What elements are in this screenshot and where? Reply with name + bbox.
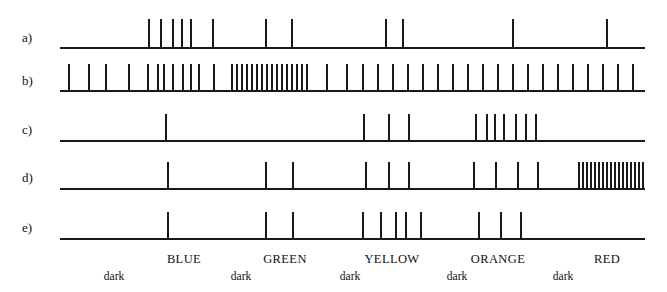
stimulus-label-red: RED [594, 252, 620, 267]
spike-mark [594, 162, 596, 188]
spike-mark [478, 212, 480, 238]
baseline-axis-row-c [60, 140, 645, 142]
spike-mark [246, 64, 248, 90]
spike-mark [405, 212, 407, 238]
spike-mark [163, 64, 165, 90]
spike-mark [292, 162, 294, 188]
spike-mark [167, 212, 169, 238]
spike-mark [231, 64, 233, 90]
spike-mark [610, 162, 612, 188]
spike-mark [362, 212, 364, 238]
stimulus-label-yellow: YELLOW [364, 252, 419, 267]
baseline-axis-row-d [60, 188, 645, 190]
spike-mark [157, 64, 159, 90]
spike-mark [598, 162, 600, 188]
spike-mark [512, 19, 514, 47]
spike-mark [642, 162, 644, 188]
spike-mark [630, 162, 632, 188]
spike-mark [408, 162, 410, 188]
spike-mark [515, 114, 517, 140]
spike-mark [362, 64, 364, 90]
spike-mark [572, 64, 574, 90]
dark-epoch-label: dark [340, 270, 360, 282]
spike-mark [256, 64, 258, 90]
spike-mark [420, 212, 422, 238]
spike-mark [626, 162, 628, 188]
spike-mark [632, 64, 634, 90]
spike-mark [286, 64, 288, 90]
spike-mark [190, 19, 192, 47]
row-label-a: a) [22, 30, 32, 46]
spike-mark [388, 162, 390, 188]
spike-mark [494, 114, 496, 140]
spike-raster-figure: a)b)c)d)e)BLUEGREENYELLOWORANGEREDdarkda… [0, 0, 667, 292]
spike-mark [265, 19, 267, 47]
spike-mark [291, 19, 293, 47]
spike-mark [160, 19, 162, 47]
spike-mark [172, 64, 174, 90]
spike-mark [365, 162, 367, 188]
spike-mark [422, 64, 424, 90]
spike-mark [190, 64, 192, 90]
spike-mark [634, 162, 636, 188]
spike-mark [281, 64, 283, 90]
spike-mark [213, 64, 215, 90]
spike-mark [236, 64, 238, 90]
row-label-c: c) [22, 122, 32, 138]
spike-mark [512, 64, 514, 90]
spike-mark [165, 114, 167, 140]
spike-mark [614, 162, 616, 188]
spike-mark [495, 162, 497, 188]
spike-mark [68, 64, 70, 90]
spike-mark [212, 19, 214, 47]
dark-epoch-label: dark [231, 270, 251, 282]
spike-mark [503, 114, 505, 140]
spike-mark [148, 19, 150, 47]
stimulus-label-blue: BLUE [167, 252, 201, 267]
spike-mark [486, 114, 488, 140]
row-label-e: e) [22, 220, 32, 236]
stimulus-label-orange: ORANGE [471, 252, 525, 267]
spike-mark [326, 64, 328, 90]
spike-mark [500, 212, 502, 238]
spike-mark [402, 19, 404, 47]
spike-mark [582, 162, 584, 188]
spike-mark [385, 19, 387, 47]
spike-mark [586, 162, 588, 188]
spike-mark [587, 64, 589, 90]
spike-mark [266, 64, 268, 90]
row-label-b: b) [22, 73, 33, 89]
spike-mark [377, 64, 379, 90]
spike-mark [535, 114, 537, 140]
spike-mark [172, 19, 174, 47]
spike-mark [346, 64, 348, 90]
spike-mark [578, 162, 580, 188]
spike-mark [271, 64, 273, 90]
spike-mark [265, 162, 267, 188]
spike-mark [602, 64, 604, 90]
row-label-d: d) [22, 170, 33, 186]
baseline-axis-row-b [60, 90, 645, 92]
baseline-axis-row-a [60, 47, 645, 49]
baseline-axis-row-e [60, 238, 645, 240]
spike-mark [473, 162, 475, 188]
spike-mark [380, 212, 382, 238]
spike-mark [475, 114, 477, 140]
spike-mark [602, 162, 604, 188]
dark-epoch-label: dark [104, 270, 124, 282]
spike-mark [606, 19, 608, 47]
spike-mark [147, 64, 149, 90]
dark-epoch-label: dark [447, 270, 467, 282]
spike-mark [395, 212, 397, 238]
spike-mark [527, 64, 529, 90]
spike-mark [618, 162, 620, 188]
spike-mark [517, 162, 519, 188]
spike-mark [542, 64, 544, 90]
spike-mark [537, 162, 539, 188]
spike-mark [392, 64, 394, 90]
spike-mark [292, 212, 294, 238]
spike-mark [198, 64, 200, 90]
spike-mark [452, 64, 454, 90]
spike-mark [265, 212, 267, 238]
spike-mark [638, 162, 640, 188]
